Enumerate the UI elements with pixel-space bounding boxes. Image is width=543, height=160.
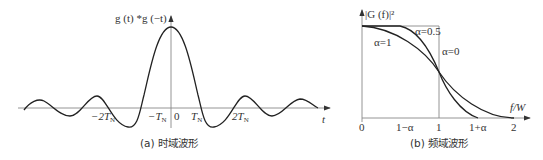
caption-b: (b) 频域波形 [410, 137, 469, 149]
tick-2: 2 [511, 121, 517, 133]
tick-1: 1 [436, 121, 442, 133]
tick-T: TN [191, 110, 202, 124]
label-alpha-0.5: α=0.5 [415, 25, 441, 37]
tick-1-plus-alpha: 1+α [469, 121, 487, 133]
tick-2T: 2TN [232, 110, 249, 124]
figure: g (t) *g (−t) t −2TN −TN 0 TN 2TN (a) 时域… [0, 0, 543, 160]
label-alpha-1: α=1 [374, 36, 391, 48]
caption-a: (a) 时域波形 [140, 137, 199, 149]
time-domain-plot: g (t) *g (−t) t −2TN −TN 0 TN 2TN (a) 时域… [18, 12, 330, 149]
tick-minus-T: −TN [148, 110, 167, 124]
x-axis-label: t [322, 113, 326, 125]
y-axis-label: g (t) *g (−t) [115, 12, 167, 25]
frequency-domain-plot: |G (f)|² f/W α=1 α=0.5 α=0 0 1−α 1 1+α 2… [359, 8, 530, 149]
tick-1-minus-alpha: 1−α [396, 121, 414, 133]
tick-zero: 0 [174, 110, 180, 122]
label-alpha-0: α=0 [442, 45, 460, 57]
x-axis-label: f/W [510, 101, 526, 113]
y-axis-label: |G (f)|² [365, 8, 395, 21]
tick-0: 0 [359, 121, 365, 133]
